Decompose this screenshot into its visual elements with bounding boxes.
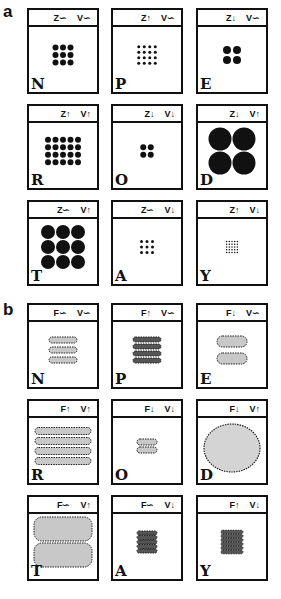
header-param-1: F↓ (226, 308, 236, 318)
header-param-2: V↑ (80, 205, 91, 215)
header-param-1: Z↓ (229, 109, 239, 119)
header-param-2: V∽ (246, 13, 260, 23)
cell-header: F∽V∽ (29, 305, 97, 322)
panel-label-b: b (3, 300, 13, 320)
cell-letter: A (115, 268, 127, 284)
header-param-1: Z↑ (229, 205, 239, 215)
cell-letter: O (115, 467, 128, 483)
cell-header: Z↓V↓ (113, 106, 181, 123)
cell-header: F↓V↓ (113, 401, 181, 418)
cell-letter: O (115, 172, 128, 188)
header-param-1: F↑ (60, 404, 70, 414)
header-param-2: V∽ (161, 13, 175, 23)
header-param-1: Z↓ (144, 109, 154, 119)
cell-letter: N (31, 371, 45, 387)
cell-header: F↑V↓ (198, 497, 266, 514)
header-param-1: Z↑ (60, 109, 70, 119)
cell-header: F↓V↑ (198, 401, 266, 418)
cell-b-D: F↓V↑D (196, 399, 268, 485)
header-param-2: V↓ (164, 500, 175, 510)
cell-header: Z↑V∽ (113, 10, 181, 27)
header-param-2: V↑ (80, 500, 91, 510)
cell-letter: P (115, 371, 126, 387)
cell-letter: A (115, 563, 127, 579)
cell-a-N: Z∽V∽N (27, 8, 99, 94)
header-param-2: V↑ (249, 404, 260, 414)
header-param-1: F∽ (53, 308, 67, 318)
header-param-2: V↑ (80, 404, 91, 414)
cell-letter: E (200, 371, 211, 387)
header-param-1: F↑ (141, 308, 151, 318)
cell-letter: Y (200, 563, 211, 579)
panel-label-a: a (3, 2, 12, 22)
header-param-1: F↑ (229, 500, 239, 510)
cell-b-Y: F↑V↓Y (196, 495, 268, 581)
cell-b-T: F∽V↑T (27, 495, 99, 581)
header-param-2: V↓ (249, 205, 260, 215)
cell-b-R: F↑V↑R (27, 399, 99, 485)
cell-header: F∽V↑ (29, 497, 97, 514)
cell-a-A: Z∽V↓A (111, 200, 183, 286)
header-param-2: V↓ (249, 500, 260, 510)
cell-header: Z↓V↑ (198, 106, 266, 123)
cell-a-O: Z↓V↓O (111, 104, 183, 190)
cell-a-D: Z↓V↑D (196, 104, 268, 190)
cell-header: Z↑V↓ (198, 202, 266, 219)
cell-letter: T (31, 563, 42, 579)
header-param-1: F∽ (57, 500, 71, 510)
header-param-1: F↓ (229, 404, 239, 414)
header-param-2: V↑ (80, 109, 91, 119)
header-param-2: V∽ (77, 308, 91, 318)
cell-header: Z∽V∽ (29, 10, 97, 27)
header-param-1: Z↓ (226, 13, 236, 23)
cell-letter: N (31, 76, 45, 92)
cell-header: F↑V↑ (29, 401, 97, 418)
header-param-2: V↓ (164, 404, 175, 414)
header-param-1: F∽ (141, 500, 155, 510)
header-param-2: V∽ (161, 308, 175, 318)
cell-letter: R (31, 172, 43, 188)
cell-a-R: Z↑V↑R (27, 104, 99, 190)
header-param-2: V↓ (164, 205, 175, 215)
cell-letter: E (200, 76, 211, 92)
cell-a-T: Z∽V↑T (27, 200, 99, 286)
cell-header: Z∽V↑ (29, 202, 97, 219)
cell-letter: D (200, 172, 213, 188)
cell-b-N: F∽V∽N (27, 303, 99, 389)
cell-a-P: Z↑V∽P (111, 8, 183, 94)
cell-letter: T (31, 268, 42, 284)
cell-header: Z↓V∽ (198, 10, 266, 27)
header-param-2: V∽ (246, 308, 260, 318)
cell-letter: P (115, 76, 126, 92)
cell-b-A: F∽V↓A (111, 495, 183, 581)
header-param-2: V∽ (77, 13, 91, 23)
header-param-1: Z↑ (141, 13, 151, 23)
header-param-1: F↓ (144, 404, 154, 414)
header-param-2: V↓ (164, 109, 175, 119)
cell-letter: D (200, 467, 213, 483)
cell-header: Z∽V↓ (113, 202, 181, 219)
cell-letter: R (31, 467, 43, 483)
cell-a-Y: Z↑V↓Y (196, 200, 268, 286)
cell-b-E: F↓V∽E (196, 303, 268, 389)
cell-a-E: Z↓V∽E (196, 8, 268, 94)
header-param-2: V↑ (249, 109, 260, 119)
header-param-1: Z∽ (57, 205, 71, 215)
cell-header: F∽V↓ (113, 497, 181, 514)
cell-b-O: F↓V↓O (111, 399, 183, 485)
cell-b-P: F↑V∽P (111, 303, 183, 389)
cell-header: F↓V∽ (198, 305, 266, 322)
cell-letter: Y (200, 268, 211, 284)
cell-header: Z↑V↑ (29, 106, 97, 123)
cell-header: F↑V∽ (113, 305, 181, 322)
header-param-1: Z∽ (141, 205, 155, 215)
header-param-1: Z∽ (53, 13, 67, 23)
